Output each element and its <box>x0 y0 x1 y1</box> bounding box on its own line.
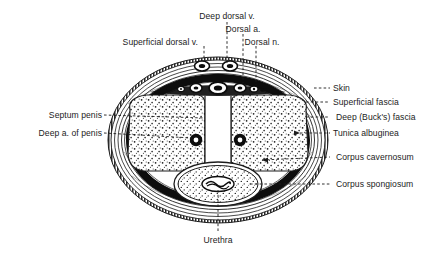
label-corpus-cavernosum: Corpus cavernosum <box>336 153 414 162</box>
label-superficial-dorsal-vein: Superficial dorsal v. <box>123 38 198 47</box>
label-dorsal-nerve: Dorsal n. <box>245 38 280 47</box>
septum-penis <box>205 96 231 171</box>
label-deep-dorsal-vein: Deep dorsal v. <box>199 12 254 21</box>
corpus-cavernosum-left <box>128 95 205 171</box>
label-septum-penis: Septum penis <box>49 111 102 120</box>
label-urethra: Urethra <box>203 236 232 245</box>
label-skin: Skin <box>333 84 350 93</box>
small-dorsal-vessel <box>167 87 172 92</box>
label-deep-bucks-fascia: Deep (Buck's) fascia <box>336 113 416 122</box>
label-tunica-albuginea: Tunica albuginea <box>333 129 399 138</box>
label-deep-artery-of-penis: Deep a. of penis <box>39 129 102 138</box>
label-corpus-spongiosum: Corpus spongiosum <box>336 180 413 189</box>
corpus-spongiosum <box>174 162 262 206</box>
label-dorsal-artery: Dorsal a. <box>226 25 261 34</box>
label-superficial-fascia: Superficial fascia <box>333 98 399 107</box>
